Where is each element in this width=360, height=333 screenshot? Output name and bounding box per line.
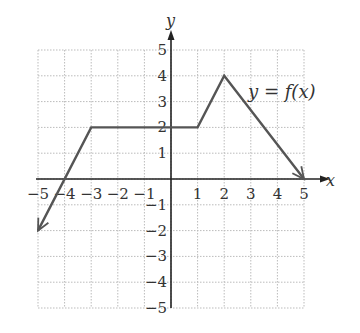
x-tick-label: 4 bbox=[273, 185, 283, 203]
y-axis-label: y bbox=[165, 11, 176, 30]
y-tick-label: −5 bbox=[145, 299, 167, 317]
x-tick-label: 2 bbox=[219, 185, 229, 203]
y-tick-label: 4 bbox=[157, 67, 167, 85]
y-tick-label: 3 bbox=[157, 93, 167, 111]
y-tick-label: −2 bbox=[145, 222, 167, 240]
x-tick-label: 1 bbox=[193, 185, 203, 203]
y-tick-label: 5 bbox=[157, 41, 167, 59]
function-label: y = f(x) bbox=[247, 81, 316, 102]
x-tick-label: −5 bbox=[27, 185, 49, 203]
axes bbox=[36, 30, 330, 308]
x-tick-label: −2 bbox=[107, 185, 129, 203]
y-tick-label: 1 bbox=[157, 144, 167, 162]
x-tick-label: −3 bbox=[80, 185, 102, 203]
x-tick-label: 5 bbox=[299, 185, 309, 203]
y-tick-label: −4 bbox=[145, 273, 167, 291]
x-axis-label: x bbox=[326, 171, 335, 190]
y-tick-label: −1 bbox=[145, 196, 167, 214]
function-graph: −5−4−3−2−11234554321−1−2−3−4−5 x y y = f… bbox=[0, 0, 360, 333]
x-tick-label: 3 bbox=[246, 185, 256, 203]
y-tick-label: −3 bbox=[145, 247, 167, 265]
